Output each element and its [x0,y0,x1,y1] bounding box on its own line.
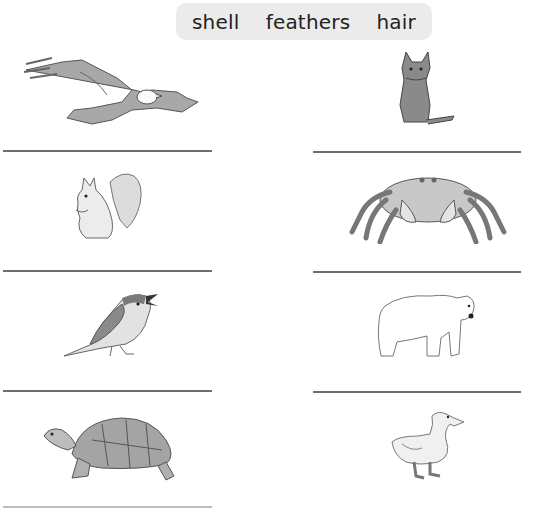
word-shell: shell [192,10,240,34]
answer-line-cat[interactable] [313,151,521,153]
cat-icon [396,50,456,125]
polar-bear-icon [371,292,485,362]
answer-line-tortoise[interactable] [3,506,212,508]
word-hair: hair [376,10,416,34]
tortoise-icon [42,410,178,482]
duck-icon [388,410,468,482]
eagle-icon [22,50,200,125]
answer-line-eagle[interactable] [3,150,212,152]
answer-line-crab[interactable] [313,271,521,273]
squirrel-icon [72,170,147,245]
word-feathers: feathers [266,10,351,34]
sparrow-icon [62,288,158,360]
answer-line-squirrel[interactable] [3,270,212,272]
word-bank: shell feathers hair [176,3,432,40]
crab-icon [340,172,516,244]
answer-line-polar-bear[interactable] [313,391,521,393]
answer-line-sparrow[interactable] [3,390,212,392]
